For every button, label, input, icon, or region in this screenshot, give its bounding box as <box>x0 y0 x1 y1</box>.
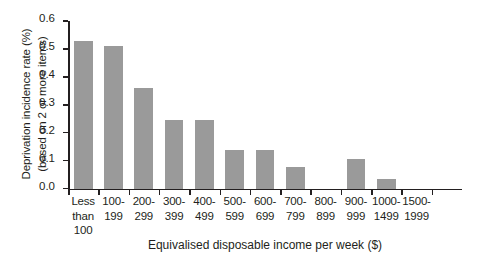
y-axis-tick-label: 0.1 <box>39 152 55 164</box>
bar <box>256 150 275 189</box>
bar-chart-figure: Deprivation incidence rate (%) (based on… <box>0 0 479 258</box>
x-axis-tick-label: 1500- 1999 <box>397 194 435 223</box>
bar <box>347 159 366 188</box>
bar <box>286 167 305 188</box>
y-axis-tick-label: 0.2 <box>39 124 55 136</box>
bar <box>134 88 153 189</box>
bar-series <box>68 21 462 190</box>
bar <box>195 120 214 189</box>
bar <box>74 41 93 189</box>
y-axis-tick-label: 0.0 <box>39 180 55 192</box>
x-axis-tick-labels: Less than 100100- 199200- 299300- 399400… <box>68 194 462 240</box>
y-axis-tick-label: 0.5 <box>39 40 55 52</box>
bar <box>165 120 184 189</box>
y-axis-tick-label: 0.3 <box>39 96 55 108</box>
bar <box>104 46 123 188</box>
y-axis-title: Deprivation incidence rate (%) (based on… <box>2 14 40 194</box>
y-axis-tick-label: 0.4 <box>39 68 55 80</box>
y-axis-tick-label: 0.6 <box>39 12 55 24</box>
bar <box>377 179 396 188</box>
x-axis-title: Equivalised disposable income per week (… <box>68 238 462 252</box>
plot-area: 0.00.10.20.30.40.50.6 <box>68 21 462 190</box>
bar <box>225 150 244 189</box>
